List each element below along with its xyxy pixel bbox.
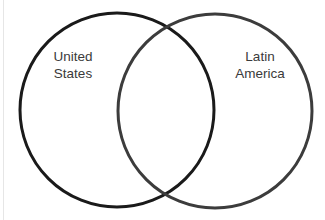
- venn-diagram: [0, 0, 325, 220]
- label-latin-america: Latin America: [215, 48, 305, 82]
- label-latin-america-line-2: America: [215, 65, 305, 82]
- label-united-states: United States: [28, 48, 118, 82]
- label-united-states-line-1: United: [28, 48, 118, 65]
- label-united-states-line-2: States: [28, 65, 118, 82]
- label-latin-america-line-1: Latin: [215, 48, 305, 65]
